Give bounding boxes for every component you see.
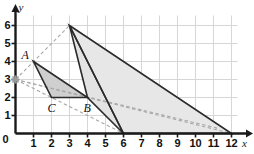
y-tick-label-2: 2	[2, 91, 14, 103]
x-tick-label-9: 9	[172, 137, 184, 149]
label-c: C	[48, 101, 56, 116]
x-axis-label: x	[242, 137, 247, 149]
y-tick-label-1: 1	[2, 109, 14, 121]
x-tick-label-5: 5	[100, 137, 112, 149]
x-tick-label-6: 6	[118, 137, 130, 149]
y-tick-label-4: 4	[2, 55, 14, 67]
x-tick-label-7: 7	[136, 137, 148, 149]
x-tick-label-11: 11	[208, 137, 220, 149]
y-tick-label-3: 3	[2, 73, 14, 85]
label-a: A	[22, 48, 29, 63]
x-tick-label-3: 3	[64, 137, 76, 149]
x-tick-label-8: 8	[154, 137, 166, 149]
y-tick-label-6: 6	[2, 19, 14, 31]
x-tick-label-12: 12	[226, 137, 238, 149]
y-axis-label: y	[19, 1, 24, 13]
coordinate-plot	[0, 0, 254, 154]
x-tick-label-10: 10	[190, 137, 202, 149]
label-b: B	[84, 101, 91, 116]
figure-canvas: 0123456789101112123456xyABC	[0, 0, 254, 154]
x-tick-label-2: 2	[46, 137, 58, 149]
origin-tick-label: 0	[3, 133, 9, 145]
x-tick-label-4: 4	[82, 137, 94, 149]
y-tick-label-5: 5	[2, 37, 14, 49]
x-tick-label-1: 1	[28, 137, 40, 149]
